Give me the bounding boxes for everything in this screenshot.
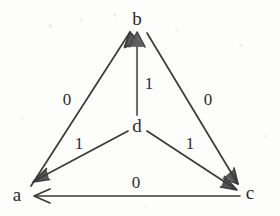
edge-a-to-b-line — [31, 32, 130, 186]
edge-a-to-b — [31, 32, 142, 186]
edge-label-a-to-b: 0 — [63, 91, 72, 108]
graph-figure: b d a c 0 0 1 1 1 0 — [0, 0, 280, 216]
node-label-b: b — [132, 9, 142, 28]
node-label-c: c — [246, 183, 254, 202]
node-label-a: a — [13, 185, 21, 204]
edge-label-d-to-b: 1 — [145, 75, 154, 92]
edge-label-b-to-c: 0 — [204, 91, 213, 108]
edge-label-d-to-c: 1 — [186, 135, 195, 152]
edge-d-to-b — [130, 32, 146, 115]
node-label-d: d — [132, 116, 142, 135]
edge-label-d-to-a: 1 — [75, 135, 84, 152]
edge-label-c-to-a: 0 — [132, 174, 141, 191]
